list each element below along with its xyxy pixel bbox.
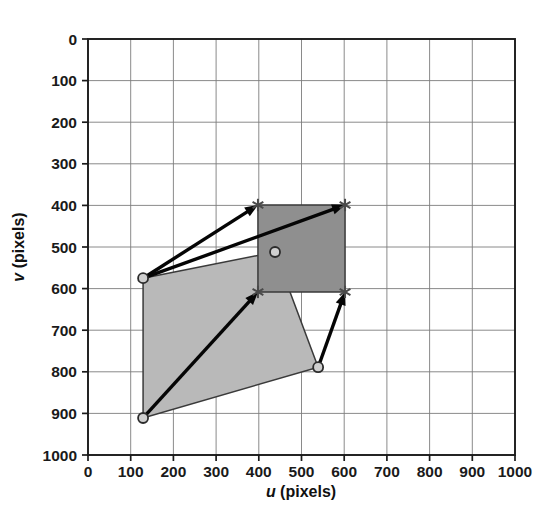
marker-circle [313, 362, 323, 372]
y-axis-unit: (pixels) [10, 212, 27, 272]
x-tick-label: 700 [374, 463, 400, 480]
x-axis-title: u (pixels) [266, 483, 336, 500]
x-tick-label: 400 [246, 463, 272, 480]
y-tick-label: 800 [51, 363, 77, 380]
y-tick-label: 600 [51, 280, 77, 297]
y-axis-title: v (pixels) [10, 212, 27, 281]
x-axis-symbol: u [266, 483, 276, 500]
y-tick-label: 300 [51, 155, 77, 172]
marker-circle [270, 247, 280, 257]
x-axis-unit: (pixels) [276, 483, 336, 500]
x-tick-label: 600 [331, 463, 357, 480]
y-tick-label: 0 [68, 31, 77, 48]
x-tick-label: 800 [417, 463, 443, 480]
x-tick-label: 500 [289, 463, 315, 480]
y-tick-label: 100 [51, 72, 77, 89]
uv-pixel-plot: 01002003004005006007008009001000 0100200… [0, 0, 549, 520]
marker-circle [138, 273, 148, 283]
marker-circle [138, 413, 148, 423]
y-tick-label: 500 [51, 239, 77, 256]
x-tick-label: 200 [160, 463, 186, 480]
figure-container: 01002003004005006007008009001000 0100200… [0, 0, 549, 520]
y-tick-label: 400 [51, 197, 77, 214]
x-tick-label: 0 [84, 463, 93, 480]
y-tick-label: 700 [51, 322, 77, 339]
x-tick-label: 1000 [498, 463, 532, 480]
y-tick-label: 200 [51, 114, 77, 131]
y-tick-label: 1000 [43, 447, 77, 464]
x-tick-label: 300 [203, 463, 229, 480]
x-tick-label: 100 [118, 463, 144, 480]
x-tick-label: 900 [459, 463, 485, 480]
y-tick-label: 900 [51, 405, 77, 422]
